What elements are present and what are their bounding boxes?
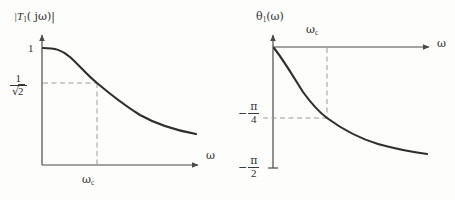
fraction-numerator: π [248,155,259,167]
fraction-denominator: 2 [248,167,259,180]
phase-x-tick-cutoff-symbol: ω [306,23,315,36]
magnitude-x-tick-cutoff: ωc [82,174,94,188]
phase-x-tick-cutoff: ωc [306,24,318,38]
plots-vector-layer [0,0,455,200]
phase-y-axis-label-main: θ [256,10,263,23]
magnitude-y-axis-label-main: |T [14,10,23,22]
magnitude-y-axis-label: |T1( jω)| [14,11,55,25]
phase-x-axis-label: ω [437,38,446,49]
phase-plot [263,35,429,168]
phase-y-tick-minus-pi-over-two: − π 2 [238,155,259,179]
fraction-denominator: √2 [10,85,27,98]
fraction-denominator: 4 [248,113,259,126]
magnitude-y-tick-one: 1 [28,43,34,54]
fraction-pi-over-four: π 4 [248,101,259,125]
radicand: 2 [18,84,25,97]
phase-x-tick-cutoff-subscript: c [315,29,318,37]
magnitude-y-tick-one-over-root-two: 1 √2 [10,73,27,97]
phase-y-tick-minus-pi-over-four: − π 4 [238,101,259,125]
magnitude-plot [42,35,198,165]
magnitude-x-tick-cutoff-symbol: ω [82,173,91,186]
figure-canvas: |T1( jω)| 1 1 √2 ωc ω θ1(ω) ωc ω − π 4 −… [0,0,455,200]
minus-sign-pi-two: − [238,162,248,173]
phase-y-axis-label: θ1(ω) [256,11,284,25]
fraction-numerator: 1 [10,73,27,85]
magnitude-y-axis-label-tail: ( jω)| [27,10,55,23]
magnitude-curve [43,48,196,134]
phase-curve [274,48,427,154]
radical-icon: √2 [12,85,25,97]
magnitude-x-axis-label: ω [206,150,215,161]
phase-y-axis-label-tail: (ω) [266,10,284,23]
fraction-pi-over-two: π 2 [248,155,259,179]
magnitude-x-tick-cutoff-subscript: c [91,179,94,187]
fraction-numerator: π [248,101,259,113]
minus-sign-pi-four: − [238,108,248,119]
fraction-one-over-root-two: 1 √2 [10,73,27,97]
